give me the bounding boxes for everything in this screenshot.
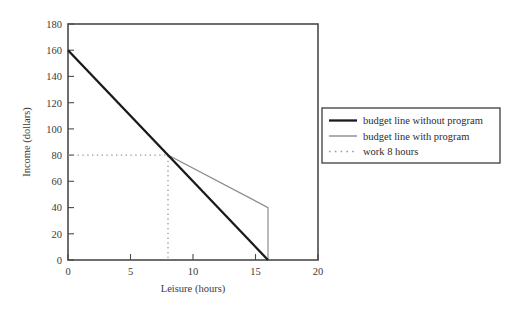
y-tick-label-60: 60 [52,176,63,187]
x-tick-label-5: 5 [128,266,133,277]
y-tick-label-120: 120 [46,98,62,109]
y-tick-label-40: 40 [52,202,63,213]
legend-label-without-program: budget line without program [363,115,483,126]
y-tick-label-20: 20 [52,229,63,240]
x-tick-label-15: 15 [250,266,261,277]
chart-figure: 180 160 140 120 100 80 60 40 20 0 0 5 10… [0,0,521,309]
x-tick-label-10: 10 [188,266,199,277]
plot-frame [68,24,318,260]
x-axis-tick-labels: 0 5 10 15 20 [65,266,323,277]
budget-line-chart: 180 160 140 120 100 80 60 40 20 0 0 5 10… [0,0,521,309]
legend-label-work-8-hours: work 8 hours [363,146,418,157]
y-tick-label-160: 160 [46,45,62,56]
y-axis-tick-labels: 180 160 140 120 100 80 60 40 20 0 [46,19,62,266]
y-tick-label-80: 80 [52,150,63,161]
y-tick-label-180: 180 [46,19,62,30]
legend: budget line without program budget line … [322,108,500,163]
x-tick-label-0: 0 [65,266,70,277]
x-axis-title: Leisure (hours) [161,283,226,295]
y-tick-label-140: 140 [46,71,62,82]
legend-label-with-program: budget line with program [363,131,469,142]
x-tick-label-20: 20 [313,266,324,277]
y-tick-label-100: 100 [46,124,62,135]
y-axis-title: Income (dollars) [21,107,33,177]
y-tick-label-0: 0 [57,255,62,266]
